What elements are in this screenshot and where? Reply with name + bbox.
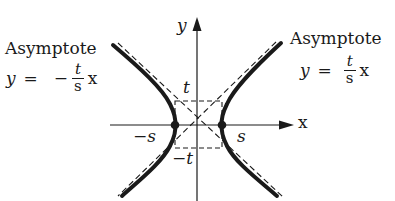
y-axis-label: y	[177, 17, 187, 34]
right-asymptote-title: Asymptote	[290, 30, 382, 47]
x-axis-arrow-icon	[279, 121, 294, 130]
left-eq-equals: =	[24, 70, 38, 87]
left-eq-sign: −	[54, 70, 68, 87]
left-eq-variable: x	[88, 70, 98, 87]
left-eq-denominator: s	[72, 79, 84, 95]
left-eq-lhs: y	[6, 70, 16, 87]
left-asymptote-title: Asymptote	[5, 40, 97, 57]
left-eq-numerator: t	[73, 62, 83, 78]
right-asymptote-equation: y = t s x	[300, 54, 369, 87]
right-eq-variable: x	[360, 62, 370, 79]
x-axis-label: x	[298, 114, 308, 131]
hyperbola-diagram: y x t −t −s s Asymptote y = − t s x Asym…	[0, 0, 395, 201]
hyperbola-left-branch	[113, 45, 175, 196]
vertex-right	[218, 121, 227, 130]
label-s: s	[237, 128, 246, 145]
right-eq-denominator: s	[344, 71, 356, 87]
right-eq-lhs: y	[300, 62, 310, 79]
right-eq-fraction: t s	[344, 54, 356, 87]
right-eq-equals: =	[318, 62, 332, 79]
vertex-left	[171, 121, 180, 130]
label-t: t	[183, 79, 190, 96]
label-neg-s: −s	[133, 128, 156, 145]
y-axis-arrow-icon	[193, 17, 202, 31]
left-asymptote-equation: y = − t s x	[6, 62, 97, 95]
right-eq-numerator: t	[345, 54, 355, 70]
left-eq-fraction: t s	[72, 62, 84, 95]
label-neg-t: −t	[172, 150, 193, 167]
